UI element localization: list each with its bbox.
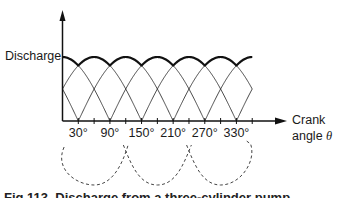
x-tick-label: 30° — [69, 127, 88, 140]
suction-lobe — [62, 145, 129, 185]
x-axis-arrow-icon — [275, 118, 287, 125]
discharge-chart — [0, 0, 338, 198]
cylinder-lobe — [63, 57, 110, 121]
theta-symbol: θ — [326, 129, 332, 143]
x-axis-label: Crank angle θ — [292, 112, 332, 144]
cylinder-lobe — [63, 57, 142, 121]
suction-lobe — [187, 141, 252, 185]
thin-lobes — [63, 57, 253, 121]
x-tick-label: 330° — [223, 127, 249, 140]
figure-caption: Fig 113. Discharge from a three-cylinder… — [4, 190, 290, 198]
cylinder-lobe — [173, 57, 252, 121]
y-axis-arrow-icon — [60, 10, 66, 21]
x-axis-label-angle: angle — [292, 129, 323, 143]
cylinder-lobe — [205, 57, 252, 121]
x-axis-label-line1: Crank — [292, 112, 332, 128]
x-tick-label: 270° — [192, 127, 218, 140]
cylinder-lobe — [236, 89, 252, 121]
envelope-curve — [63, 57, 253, 66]
y-axis-label: Discharge — [5, 50, 61, 63]
x-axis-label-line2: angle θ — [292, 128, 332, 144]
cylinder-lobe — [63, 89, 79, 121]
x-tick-label: 150° — [129, 127, 155, 140]
dashed-lobes — [62, 141, 252, 185]
suction-lobe — [123, 145, 191, 185]
x-tick-label: 90° — [100, 127, 119, 140]
x-tick-label: 210° — [160, 127, 186, 140]
